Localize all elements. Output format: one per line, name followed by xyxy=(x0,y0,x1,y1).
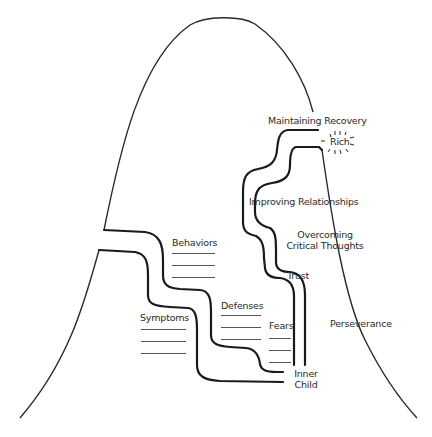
label-rich: Rich xyxy=(330,136,350,147)
blank-line xyxy=(221,339,261,340)
label-behaviors: Behaviors xyxy=(172,237,217,248)
label-overcoming-critical-thoughts: Overcoming Critical Thoughts xyxy=(285,229,365,251)
label-improving-relationships: Improving Relationships xyxy=(249,196,359,207)
label-fears: Fears xyxy=(269,320,293,331)
label-maintaining-recovery: Maintaining Recovery xyxy=(268,115,367,126)
label-inner-line1: Inner xyxy=(292,368,320,379)
blank-line xyxy=(141,353,186,354)
blank-line xyxy=(269,362,291,363)
blank-line xyxy=(141,341,186,342)
blank-line xyxy=(221,315,261,316)
label-inner-line2: Child xyxy=(292,379,320,390)
mountain-left-lower-slope xyxy=(20,250,99,418)
mountain-diagram xyxy=(0,0,432,437)
blank-line xyxy=(172,277,215,278)
blank-line xyxy=(141,329,186,330)
label-overcoming-line2: Critical Thoughts xyxy=(285,240,365,251)
blank-line xyxy=(269,350,291,351)
descent-path-lower xyxy=(99,250,283,382)
blank-line xyxy=(269,338,291,339)
label-inner-child: Inner Child xyxy=(292,368,320,390)
label-trust: Trust xyxy=(287,270,309,281)
label-symptoms: Symptoms xyxy=(140,312,189,323)
blank-line xyxy=(221,327,261,328)
mountain-right-lower-slope xyxy=(322,150,417,418)
label-perseverance: Perseverance xyxy=(330,318,392,329)
label-overcoming-line1: Overcoming xyxy=(285,229,365,240)
blank-line xyxy=(172,253,215,254)
blank-line xyxy=(172,265,215,266)
label-defenses: Defenses xyxy=(221,300,264,311)
